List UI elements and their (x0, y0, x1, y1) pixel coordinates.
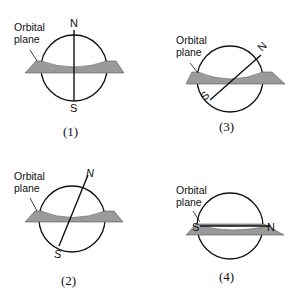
orbital-label-line1: Orbital (176, 184, 207, 196)
orbital-label-line1: Orbital (176, 34, 207, 46)
orbital-label-line2: plane (14, 33, 40, 45)
orbital-label-line2: plane (14, 182, 40, 194)
orbital-label-line2: plane (176, 196, 202, 208)
south-pole-label: S (54, 248, 62, 260)
north-pole-label: N (255, 39, 269, 53)
south-pole-label: S (70, 102, 77, 114)
label-pointer (30, 198, 37, 211)
panel-3: Orbital plane N S (3) (176, 34, 285, 134)
north-pole-label: N (267, 221, 275, 233)
panel-caption: (3) (219, 119, 234, 134)
panel-1: Orbital plane N S (1) (14, 17, 124, 139)
label-pointer (30, 50, 37, 61)
diagram-canvas: Orbital plane N S (1) Orbital plane N S … (0, 0, 302, 291)
panel-caption: (2) (61, 273, 76, 288)
orbital-label-line1: Orbital (14, 170, 45, 182)
panel-4: Orbital plane S N (4) (176, 184, 284, 284)
north-pole-label: N (70, 17, 78, 29)
panel-2: Orbital plane N S (2) (14, 167, 123, 288)
label-pointer (190, 63, 198, 73)
panel-caption: (1) (63, 124, 78, 139)
north-pole-label: N (86, 167, 94, 179)
orbital-label-line2: plane (176, 46, 202, 58)
orbital-label-line1: Orbital (14, 21, 45, 33)
panel-caption: (4) (219, 269, 234, 284)
south-pole-label: S (192, 221, 199, 233)
